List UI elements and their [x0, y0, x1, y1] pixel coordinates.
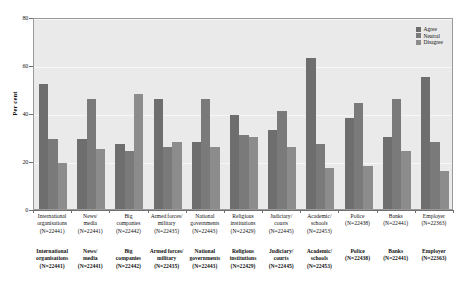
legend-swatch-agree — [416, 27, 421, 32]
legend-item-disagree: Disagree — [416, 39, 443, 46]
x-axis-label-line: (N=22363) — [412, 220, 456, 227]
bar-group — [421, 19, 449, 209]
legend-label-disagree: Disagree — [423, 39, 443, 46]
bar-neutral — [239, 135, 248, 209]
bar-agree — [421, 77, 430, 209]
legend: Agree Neutral Disagree — [414, 24, 446, 48]
x-tick-mark — [300, 210, 301, 213]
legend-swatch-neutral — [416, 33, 421, 38]
bar-neutral — [125, 151, 134, 209]
bar-chart: Per cent 020406080 Agree Neutral Disagre… — [0, 0, 463, 283]
bar-agree — [268, 130, 277, 209]
y-tick-label: 20 — [6, 159, 28, 165]
bar-agree — [154, 99, 163, 209]
x-tick-mark — [453, 210, 454, 213]
x-axis-label: Employer(N=22363) — [412, 213, 456, 228]
x-tick-mark — [224, 210, 225, 213]
x-tick-mark — [262, 210, 263, 213]
x-axis-label-line: (N=22363) — [412, 255, 456, 262]
bar-neutral — [201, 99, 210, 209]
bar-agree — [383, 137, 392, 209]
bar-neutral — [354, 103, 363, 209]
legend-swatch-disagree — [416, 40, 421, 45]
bar-disagree — [96, 149, 105, 209]
bar-group — [115, 19, 143, 209]
bar-disagree — [249, 137, 258, 209]
y-tick-label: 0 — [6, 207, 28, 213]
bar-agree — [306, 58, 315, 209]
bar-neutral — [392, 99, 401, 209]
bar-disagree — [440, 171, 449, 209]
x-axis-label-line: Employer — [412, 248, 456, 255]
x-tick-mark — [71, 210, 72, 213]
bar-disagree — [172, 142, 181, 209]
x-tick-mark — [186, 210, 187, 213]
x-axis-labels-bold: Internationalorganisations(N=22441)News/… — [33, 248, 453, 282]
bar-disagree — [58, 163, 67, 209]
bar-disagree — [401, 151, 410, 209]
x-tick-mark — [338, 210, 339, 213]
plot-area: Agree Neutral Disagree — [33, 18, 453, 210]
x-tick-mark — [109, 210, 110, 213]
x-axis-labels: Internationalorganisations(N=22441)News/… — [33, 213, 453, 247]
bar-agree — [345, 118, 354, 209]
bar-agree — [77, 139, 86, 209]
bar-disagree — [134, 94, 143, 209]
bar-neutral — [163, 147, 172, 209]
bar-disagree — [287, 147, 296, 209]
x-axis-line — [33, 210, 453, 211]
bar-agree — [230, 115, 239, 209]
bar-group — [230, 19, 258, 209]
x-tick-mark — [148, 210, 149, 213]
bar-agree — [115, 144, 124, 209]
bar-group — [77, 19, 105, 209]
bar-neutral — [316, 144, 325, 209]
x-tick-mark — [415, 210, 416, 213]
bar-disagree — [325, 168, 334, 209]
bar-group — [268, 19, 296, 209]
bar-disagree — [210, 147, 219, 209]
bar-group — [39, 19, 67, 209]
y-tick-label: 40 — [6, 111, 28, 117]
x-tick-mark — [377, 210, 378, 213]
bar-group — [383, 19, 411, 209]
x-tick-mark — [33, 210, 34, 213]
bar-neutral — [87, 99, 96, 209]
x-axis-label-line: Employer — [412, 213, 456, 220]
bar-agree — [39, 84, 48, 209]
bar-neutral — [48, 139, 57, 209]
bar-neutral — [430, 142, 439, 209]
bar-neutral — [277, 111, 286, 209]
bar-group — [306, 19, 334, 209]
bar-group — [345, 19, 373, 209]
bar-group — [154, 19, 182, 209]
bar-group — [192, 19, 220, 209]
bar-disagree — [363, 166, 372, 209]
y-tick-label: 80 — [6, 15, 28, 21]
bar-agree — [192, 142, 201, 209]
y-axis-title: Per cent — [11, 74, 18, 134]
x-axis-label-line: (N=22453) — [297, 228, 341, 235]
x-axis-label: Employer(N=22363) — [412, 248, 456, 263]
x-axis-label-line: (N=22453) — [297, 263, 341, 270]
y-tick-label: 60 — [6, 63, 28, 69]
